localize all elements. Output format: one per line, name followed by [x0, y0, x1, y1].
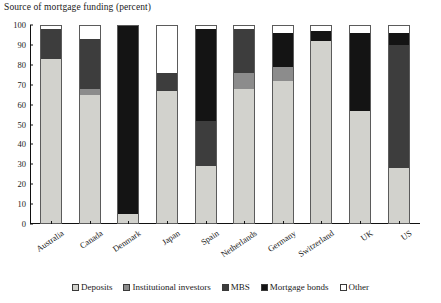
x-axis-label: UK: [359, 228, 375, 243]
x-axis-labels: AustraliaCanadaDenmarkJapanSpainNetherla…: [30, 226, 420, 282]
legend-label: MBS: [231, 282, 250, 292]
bar-column[interactable]: [233, 25, 255, 224]
y-axis-tick-label: 100: [13, 20, 30, 30]
x-axis-tick-mark: [283, 221, 284, 224]
bar-column[interactable]: [272, 25, 294, 224]
y-axis-tick-label: 60: [18, 100, 31, 110]
x-axis-tick-mark: [399, 221, 400, 224]
x-axis-tick-mark: [167, 221, 168, 224]
y-axis-tick-label: 20: [18, 179, 31, 189]
y-axis-tick-label: 30: [18, 159, 31, 169]
x-axis-tick-mark: [90, 221, 91, 224]
y-axis-tick-label: 90: [18, 40, 31, 50]
legend-swatch-icon: [123, 284, 130, 291]
x-axis-tick-mark: [360, 221, 361, 224]
x-axis-label: Denmark: [111, 228, 143, 254]
chart-title: Source of mortgage funding (percent): [4, 2, 151, 12]
legend-item[interactable]: Institutional investors: [123, 282, 210, 292]
x-axis-label: US: [399, 228, 414, 242]
x-axis-label: Germany: [266, 228, 298, 254]
x-axis-label: Australia: [34, 228, 65, 254]
x-axis-label: Canada: [78, 228, 105, 251]
bar-outline: [349, 25, 371, 224]
x-axis-tick-mark: [244, 221, 245, 224]
x-axis-label: Spain: [199, 228, 221, 247]
legend-swatch-icon: [340, 284, 347, 291]
bar-column[interactable]: [79, 25, 101, 224]
bar-column[interactable]: [40, 25, 62, 224]
bar-column[interactable]: [156, 25, 178, 224]
plot-area: 0102030405060708090100: [30, 25, 420, 224]
bar-outline: [388, 25, 410, 224]
legend-item[interactable]: Other: [340, 282, 370, 292]
bar-outline: [310, 25, 332, 224]
legend-item[interactable]: MBS: [222, 282, 250, 292]
bar-group: [30, 25, 420, 224]
bar-outline: [195, 25, 217, 224]
chart-legend: DepositsInstitutional investorsMBSMortga…: [0, 282, 441, 292]
bar-column[interactable]: [388, 25, 410, 224]
x-axis-tick-mark: [128, 221, 129, 224]
y-axis-tick-label: 50: [18, 120, 31, 130]
bar-column[interactable]: [349, 25, 371, 224]
x-axis-label: Switzerland: [297, 228, 336, 259]
y-axis-tick-label: 0: [22, 219, 30, 229]
legend-swatch-icon: [261, 284, 268, 291]
chart-container: Source of mortgage funding (percent) 010…: [0, 0, 441, 303]
legend-item[interactable]: Deposits: [72, 282, 113, 292]
bar-outline: [79, 25, 101, 224]
y-axis-tick-label: 70: [18, 80, 31, 90]
bar-outline: [272, 25, 294, 224]
bar-outline: [117, 25, 139, 224]
legend-label: Institutional investors: [132, 282, 210, 292]
legend-swatch-icon: [222, 284, 229, 291]
legend-label: Other: [349, 282, 370, 292]
legend-swatch-icon: [72, 284, 79, 291]
x-axis-tick-mark: [51, 221, 52, 224]
x-axis-tick-mark: [321, 221, 322, 224]
bar-outline: [233, 25, 255, 224]
bar-outline: [156, 25, 178, 224]
bar-outline: [40, 25, 62, 224]
x-axis-label: Japan: [160, 228, 182, 247]
bar-column[interactable]: [195, 25, 217, 224]
y-axis-tick-label: 80: [18, 60, 31, 70]
x-axis-tick-mark: [206, 221, 207, 224]
x-axis-label: Netherlands: [219, 228, 259, 259]
y-axis-tick-label: 10: [18, 199, 31, 209]
y-axis-tick-label: 40: [18, 139, 31, 149]
bar-column[interactable]: [310, 25, 332, 224]
legend-label: Mortgage bonds: [270, 282, 329, 292]
bar-column[interactable]: [117, 25, 139, 224]
legend-label: Deposits: [81, 282, 113, 292]
legend-item[interactable]: Mortgage bonds: [261, 282, 329, 292]
